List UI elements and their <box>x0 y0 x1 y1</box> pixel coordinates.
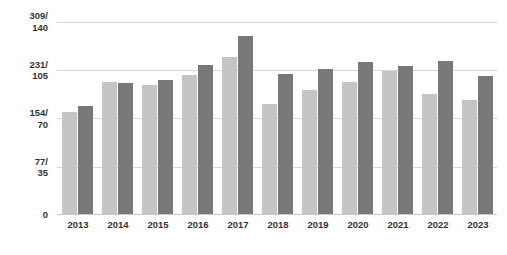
plot-area <box>57 10 497 215</box>
bar-light-2020[interactable] <box>342 82 357 214</box>
x-axis-tick-2015: 2015 <box>138 219 178 230</box>
bar-dark-2022[interactable] <box>438 61 453 214</box>
y-axis: 309/ 140 231/ 105 154/ 70 77/ 35 0 <box>0 0 57 255</box>
x-axis-tick-2017: 2017 <box>218 219 258 230</box>
bar-light-2014[interactable] <box>102 82 117 214</box>
x-axis-tick-2019: 2019 <box>298 219 338 230</box>
bar-chart: 309/ 140 231/ 105 154/ 70 77/ 35 0 20132… <box>0 0 507 255</box>
bar-dark-2018[interactable] <box>278 74 293 214</box>
bar-dark-2014[interactable] <box>118 83 133 214</box>
y-axis-tick-231-105: 231/ 105 <box>30 59 49 82</box>
bar-light-2013[interactable] <box>62 112 77 214</box>
bar-light-2017[interactable] <box>222 57 237 214</box>
bar-dark-2020[interactable] <box>358 62 373 214</box>
x-axis-tick-2020: 2020 <box>338 219 378 230</box>
x-axis-tick-2023: 2023 <box>458 219 498 230</box>
gridline-zero <box>57 214 497 215</box>
x-axis-tick-2021: 2021 <box>378 219 418 230</box>
y-axis-tick-154-70: 154/ 70 <box>30 107 49 130</box>
bar-dark-2013[interactable] <box>78 106 93 214</box>
gridline-309-140 <box>57 22 497 23</box>
bar-light-2022[interactable] <box>422 94 437 214</box>
bar-light-2019[interactable] <box>302 90 317 214</box>
x-axis: 2013201420152016201720182019202020212022… <box>57 219 497 239</box>
y-axis-tick-309-140: 309/ 140 <box>30 10 49 33</box>
x-axis-tick-2013: 2013 <box>58 219 98 230</box>
gridline-231-105 <box>57 70 497 71</box>
bar-dark-2017[interactable] <box>238 36 253 214</box>
x-axis-tick-2018: 2018 <box>258 219 298 230</box>
bar-light-2015[interactable] <box>142 85 157 214</box>
x-axis-tick-2016: 2016 <box>178 219 218 230</box>
bar-light-2023[interactable] <box>462 100 477 214</box>
x-axis-tick-2022: 2022 <box>418 219 458 230</box>
bar-light-2016[interactable] <box>182 75 197 214</box>
y-axis-tick-77-35: 77/ 35 <box>35 156 48 179</box>
bar-dark-2019[interactable] <box>318 69 333 214</box>
bar-dark-2023[interactable] <box>478 76 493 214</box>
x-axis-tick-2014: 2014 <box>98 219 138 230</box>
bar-light-2018[interactable] <box>262 104 277 214</box>
bar-light-2021[interactable] <box>382 71 397 214</box>
bar-dark-2015[interactable] <box>158 80 173 214</box>
bar-dark-2021[interactable] <box>398 66 413 214</box>
bar-dark-2016[interactable] <box>198 65 213 214</box>
y-axis-tick-0: 0 <box>43 209 48 221</box>
